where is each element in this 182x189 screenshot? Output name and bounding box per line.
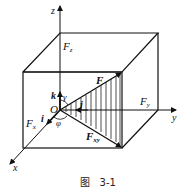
x-axis-label: x [12,162,18,173]
k-label: k [51,90,56,101]
Fxy-label: Fxy [85,130,101,144]
i-label: i [41,113,44,124]
Fx-label: Fx [25,117,37,131]
diagram-canvas: z y x O Fz Fy Fx F Fxy k i j γ φ 图 3-1 [0,0,182,189]
y-axis-label: y [171,112,177,123]
z-axis-label: z [50,5,55,16]
force-F-vector [60,73,121,110]
j-label: j [78,99,83,110]
origin-label: O [50,103,58,115]
force-decomposition-diagram: z y x O Fz Fy Fx F Fxy k i j γ φ 图 3-1 [0,0,182,189]
phi-label: φ [56,118,61,128]
F-label: F [95,74,104,86]
figure-caption: 图 3-1 [80,177,116,188]
gamma-label: γ [63,92,67,102]
Fy-label: Fy [139,95,151,109]
Fz-label: Fz [62,40,73,54]
